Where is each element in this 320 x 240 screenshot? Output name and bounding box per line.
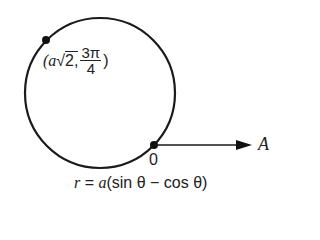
equation-rhs: (sin θ − cos θ) bbox=[106, 174, 207, 191]
fraction-numerator: 3π bbox=[80, 45, 101, 61]
pole-label: 0 bbox=[149, 151, 158, 169]
equation-equals: = bbox=[80, 174, 98, 191]
equation-caption: r = a(sin θ − cos θ) bbox=[74, 174, 207, 192]
sqrt-argument: 2, bbox=[65, 51, 78, 70]
point-label-suffix: ) bbox=[103, 52, 108, 70]
sqrt-symbol: √ bbox=[56, 52, 65, 70]
point-label: (a √ 2, 3π 4 ) bbox=[43, 45, 108, 76]
fraction-denominator: 4 bbox=[87, 61, 95, 76]
angle-fraction: 3π 4 bbox=[80, 45, 101, 76]
polar-axis-label: A bbox=[258, 134, 269, 155]
arrowhead-icon bbox=[236, 140, 252, 150]
point-marker bbox=[42, 36, 50, 44]
point-label-prefix: (a bbox=[43, 52, 56, 70]
